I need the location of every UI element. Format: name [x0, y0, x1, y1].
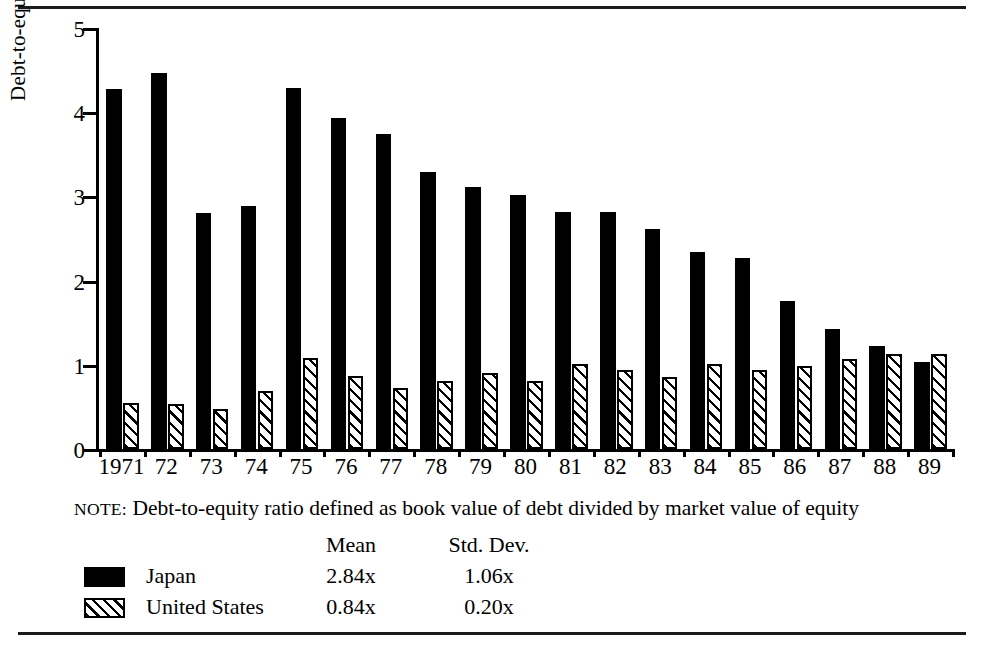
bar-group-83	[638, 28, 683, 449]
y-tick-mark	[83, 449, 97, 452]
legend-label-japan: Japan	[146, 561, 196, 591]
bar-group-77	[368, 28, 413, 449]
y-tick-label: 4	[74, 102, 86, 125]
bar-united-states-74	[258, 391, 274, 449]
bar-japan-75	[286, 88, 302, 449]
y-tick-mark	[83, 365, 97, 368]
bar-group-75	[279, 28, 324, 449]
x-tick-label-75: 75	[290, 455, 313, 478]
bar-japan-87	[825, 329, 841, 449]
legend-row-united-states: United States 0.84x 0.20x	[74, 592, 634, 623]
bar-japan-88	[869, 346, 885, 449]
bar-group-74	[234, 28, 279, 449]
bar-united-states-75	[303, 358, 319, 449]
legend-header-mean: Mean	[296, 530, 406, 560]
bar-united-states-1971	[123, 403, 139, 449]
bar-group-78	[413, 28, 458, 449]
x-axis-line	[96, 449, 952, 452]
note-text: Debt-to-equity ratio defined as book val…	[132, 496, 859, 520]
x-tick-label-83: 83	[649, 455, 672, 478]
bar-united-states-80	[527, 381, 543, 449]
bar-japan-76	[331, 118, 347, 449]
x-tick-label-84: 84	[694, 455, 717, 478]
bar-united-states-77	[393, 388, 409, 449]
y-tick-mark	[83, 28, 97, 31]
bar-japan-86	[780, 301, 796, 449]
bar-group-82	[593, 28, 638, 449]
bar-group-84	[683, 28, 728, 449]
bar-japan-84	[690, 252, 706, 449]
legend-row-japan: Japan 2.84x 1.06x	[74, 561, 634, 592]
bar-japan-1971	[106, 89, 122, 449]
bar-group-85	[728, 28, 773, 449]
legend-label-united-states: United States	[146, 592, 264, 622]
bar-united-states-73	[213, 409, 229, 449]
bar-group-80	[503, 28, 548, 449]
x-tick-mark	[952, 449, 955, 457]
bar-united-states-78	[437, 381, 453, 449]
bar-group-86	[772, 28, 817, 449]
bar-japan-81	[555, 212, 571, 449]
bar-japan-83	[645, 229, 661, 449]
y-tick-mark	[83, 196, 97, 199]
bar-japan-89	[914, 362, 930, 449]
bar-united-states-72	[168, 404, 184, 449]
y-tick-mark	[83, 281, 97, 284]
legend-header-std-dev: Std. Dev.	[426, 530, 552, 560]
x-tick-label-1971: 1971	[98, 455, 144, 478]
bar-japan-82	[600, 212, 616, 449]
bar-group-72	[144, 28, 189, 449]
y-tick-label: 3	[74, 186, 86, 209]
legend-mean-united-states: 0.84x	[296, 592, 406, 622]
bar-japan-85	[735, 258, 751, 449]
bar-united-states-86	[797, 366, 813, 449]
legend-mean-japan: 2.84x	[296, 561, 406, 591]
x-tick-label-79: 79	[469, 455, 492, 478]
figure-debt-to-equity-chart: Debt-to-equity ratio (x) 012345 19717273…	[0, 0, 984, 652]
bar-japan-77	[376, 134, 392, 449]
x-tick-label-76: 76	[334, 455, 357, 478]
x-tick-label-73: 73	[200, 455, 223, 478]
bar-group-1971	[99, 28, 144, 449]
y-tick-label: 1	[74, 354, 86, 377]
bar-group-79	[458, 28, 503, 449]
bar-united-states-81	[572, 364, 588, 449]
y-axis-title-text: Debt-to-equity ratio (x)	[6, 0, 31, 150]
bar-united-states-87	[842, 359, 858, 449]
bar-united-states-83	[662, 377, 678, 449]
x-tick-label-87: 87	[828, 455, 851, 478]
x-tick-label-78: 78	[424, 455, 447, 478]
bar-united-states-76	[348, 376, 364, 449]
bar-japan-78	[420, 172, 436, 449]
bar-japan-72	[151, 73, 167, 449]
x-tick-label-80: 80	[514, 455, 537, 478]
legend-swatch-japan-icon	[84, 567, 125, 587]
y-tick-label: 2	[74, 270, 86, 293]
y-tick-label: 0	[74, 439, 86, 462]
bar-united-states-85	[752, 370, 768, 449]
x-tick-label-86: 86	[783, 455, 806, 478]
x-tick-label-74: 74	[245, 455, 268, 478]
bar-series-container	[99, 28, 952, 449]
legend-header-row: Mean Std. Dev.	[74, 530, 634, 561]
x-tick-label-85: 85	[738, 455, 761, 478]
bar-group-76	[323, 28, 368, 449]
bar-japan-73	[196, 213, 212, 449]
bar-group-87	[817, 28, 862, 449]
plot-area: 012345	[96, 28, 952, 449]
bar-united-states-89	[931, 354, 947, 449]
bar-group-89	[907, 28, 952, 449]
y-axis-title: Debt-to-equity ratio (x)	[6, 0, 31, 150]
y-tick-label: 5	[74, 18, 86, 41]
bar-japan-80	[510, 195, 526, 449]
bar-united-states-88	[886, 354, 902, 449]
x-tick-label-88: 88	[873, 455, 896, 478]
bar-united-states-79	[482, 373, 498, 449]
top-divider-rule	[18, 6, 966, 9]
bar-group-73	[189, 28, 234, 449]
legend-std-dev-japan: 1.06x	[426, 561, 552, 591]
legend-std-dev-united-states: 0.20x	[426, 592, 552, 622]
bar-japan-79	[465, 187, 481, 449]
chart-note: NOTE: Debt-to-equity ratio defined as bo…	[74, 496, 859, 521]
x-tick-label-89: 89	[918, 455, 941, 478]
